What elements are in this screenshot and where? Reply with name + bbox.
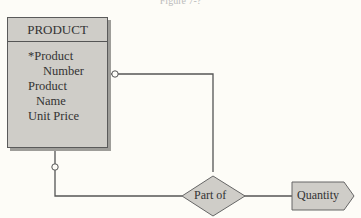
attr-product-number-cont: Number — [28, 64, 107, 79]
attr-product-name: Product — [28, 79, 107, 94]
entity-title: PRODUCT — [8, 18, 107, 42]
attr-product-name-cont: Name — [28, 94, 107, 109]
attr-unit-price: Unit Price — [28, 109, 107, 124]
attribute-label: Quantity — [297, 188, 339, 203]
attr-product-number: *Product — [28, 49, 107, 64]
relationship-label: Part of — [194, 188, 226, 203]
product-entity: PRODUCT *Product Number Product Name Uni… — [7, 17, 108, 148]
entity-attributes: *Product Number Product Name Unit Price — [8, 42, 107, 124]
